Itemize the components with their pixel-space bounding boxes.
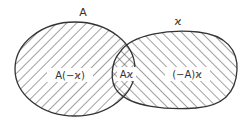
region-x-only-label: (−A)ϰ (172, 69, 202, 80)
region-a-only-label: A(−ϰ) (55, 70, 85, 81)
set-a-title: A (79, 6, 87, 19)
region-intersection-label: Aϰ (120, 69, 133, 80)
set-x-title: ϰ (174, 15, 181, 28)
venn-diagram: A ϰ A(−ϰ) Aϰ (−A)ϰ (0, 0, 250, 129)
